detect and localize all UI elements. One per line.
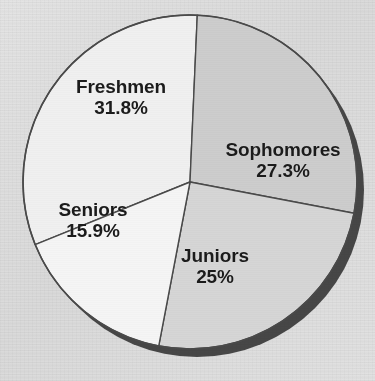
pie-chart-page: Freshmen 31.8% Sophomores 27.3% Juniors … <box>0 0 375 381</box>
pie-label-sophomores: Sophomores 27.3% <box>200 139 366 182</box>
pie-label-sophomores-name: Sophomores <box>200 139 366 160</box>
pie-label-seniors-value: 15.9% <box>28 220 158 241</box>
pie-label-seniors: Seniors 15.9% <box>28 199 158 242</box>
pie-chart <box>0 0 375 381</box>
pie-label-seniors-name: Seniors <box>28 199 158 220</box>
pie-label-freshmen: Freshmen 31.8% <box>46 76 196 119</box>
pie-label-juniors: Juniors 25% <box>150 245 280 288</box>
pie-label-freshmen-name: Freshmen <box>46 76 196 97</box>
pie-slice-sophomores <box>190 15 357 213</box>
pie-label-juniors-name: Juniors <box>150 245 280 266</box>
pie-label-juniors-value: 25% <box>150 266 280 287</box>
pie-label-freshmen-value: 31.8% <box>46 97 196 118</box>
pie-label-sophomores-value: 27.3% <box>200 160 366 181</box>
pie-slices <box>23 15 357 349</box>
